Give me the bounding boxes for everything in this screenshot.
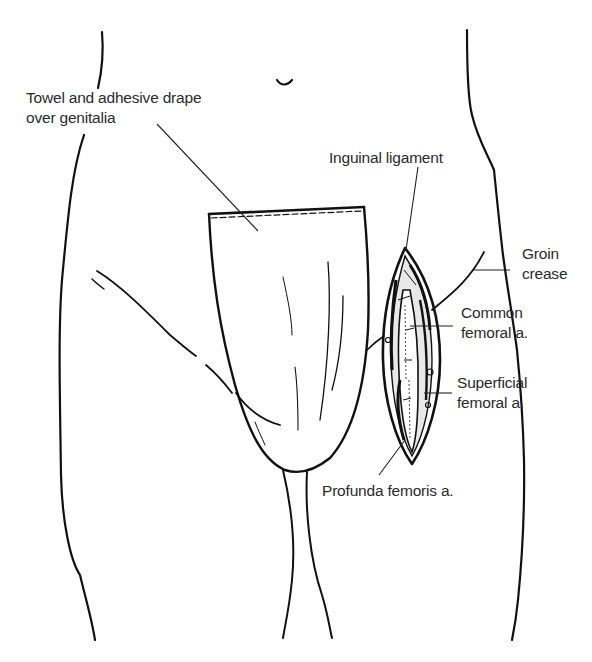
- label-groin-line2: crease: [522, 264, 567, 284]
- leader-drape: [157, 124, 258, 231]
- inner-left-leg-line: [283, 470, 293, 638]
- drape-top-edge: [209, 207, 364, 214]
- label-drape: Towel and adhesive drape over genitalia: [26, 88, 201, 128]
- leader-inguinal: [406, 167, 418, 250]
- label-common-femoral-line1: Common: [461, 303, 528, 323]
- drape-right-crease: [367, 336, 384, 350]
- leader-lines: [157, 124, 510, 475]
- drape-fold-4: [295, 367, 298, 430]
- navel-icon: [277, 80, 292, 85]
- left-flank-outline: [60, 135, 95, 640]
- drape-outline: [209, 207, 369, 472]
- drape-fold-1: [283, 277, 292, 335]
- label-drape-line1: Towel and adhesive drape: [26, 88, 201, 108]
- label-groin-crease: Groin crease: [522, 244, 567, 284]
- label-superficial-femoral-line1: Superficial: [457, 373, 527, 393]
- left-groin-crease-tick: [92, 279, 104, 289]
- leader-profunda: [379, 440, 405, 475]
- label-inguinal-line1: Inguinal ligament: [329, 148, 443, 168]
- label-drape-line2: over genitalia: [26, 108, 201, 128]
- label-profunda-line1: Profunda femoris a.: [322, 481, 453, 501]
- right-groin-crease: [432, 252, 484, 310]
- label-common-femoral: Common femoral a.: [461, 303, 528, 343]
- label-profunda-femoris: Profunda femoris a.: [322, 481, 453, 501]
- drape-fold-3: [332, 296, 343, 390]
- label-common-femoral-line2: femoral a.: [461, 323, 528, 343]
- drape-fold-2: [320, 262, 329, 420]
- left-torso-outline: [98, 32, 103, 88]
- illustration-canvas: Towel and adhesive drape over genitalia …: [0, 0, 592, 662]
- label-groin-line1: Groin: [522, 244, 567, 264]
- label-superficial-femoral-line2: femoral a.: [457, 393, 527, 413]
- label-inguinal-ligament: Inguinal ligament: [329, 148, 443, 168]
- label-superficial-femoral: Superficial femoral a.: [457, 373, 527, 413]
- left-groin-crease: [97, 271, 196, 356]
- left-groin-crease-lower: [206, 365, 232, 393]
